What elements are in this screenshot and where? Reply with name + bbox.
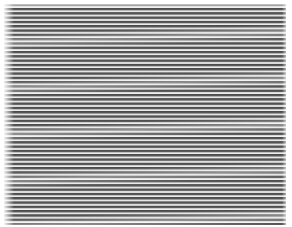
left-edge-fade [0,0,14,227]
top-edge-fade [0,0,292,8]
striped-texture [4,4,286,225]
right-edge-fade [282,0,292,227]
